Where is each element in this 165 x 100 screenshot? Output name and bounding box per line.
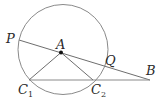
- segment-AC1: [29, 53, 61, 81]
- label-Q: Q: [105, 53, 116, 68]
- label-C2-sub: 2: [101, 90, 106, 99]
- label-A: A: [55, 37, 65, 52]
- label-C1-sub: 1: [28, 90, 33, 99]
- segment-PB: [19, 40, 150, 80]
- label-C1: C1: [18, 82, 33, 99]
- label-P: P: [5, 31, 15, 46]
- label-C2-main: C: [91, 82, 101, 97]
- label-C1-main: C: [18, 82, 28, 97]
- geometry-diagram: P A Q B C1 C2: [0, 0, 165, 100]
- label-B: B: [145, 63, 156, 78]
- segment-AC2: [61, 53, 93, 81]
- label-C2: C2: [91, 82, 106, 99]
